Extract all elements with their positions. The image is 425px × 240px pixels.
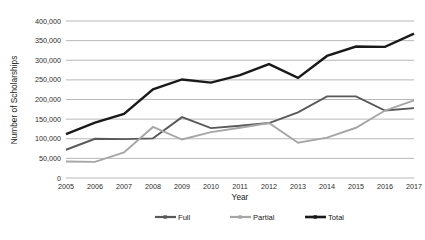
x-tick-label: 2005	[58, 182, 74, 191]
series-line-partial	[66, 100, 414, 162]
x-tick-label: 2014	[319, 182, 335, 191]
x-axis-tick-labels: 2005200620072008200920102011201220132014…	[58, 182, 422, 191]
legend-marker-full	[164, 215, 167, 218]
y-tick-label: 250,000	[35, 75, 61, 84]
x-tick-label: 2007	[116, 182, 132, 191]
x-axis-title: Year	[232, 192, 249, 202]
chart-canvas: 050,000100,000150,000200,000250,000300,0…	[0, 0, 425, 240]
y-tick-label: 50,000	[39, 154, 61, 163]
y-axis-title: Number of Scholarships	[9, 56, 19, 145]
chart-legend: FullPartialTotal	[155, 213, 344, 222]
x-tick-label: 2008	[145, 182, 161, 191]
data-series-group	[66, 34, 414, 162]
y-tick-label: 200,000	[35, 95, 61, 104]
legend-label-full: Full	[178, 213, 191, 222]
legend-label-total: Total	[328, 213, 344, 222]
x-tick-label: 2009	[174, 182, 190, 191]
y-tick-label: 400,000	[35, 17, 61, 26]
series-line-full	[66, 96, 414, 149]
y-tick-label: 100,000	[35, 134, 61, 143]
x-tick-label: 2013	[290, 182, 306, 191]
y-tick-label: 150,000	[35, 115, 61, 124]
x-tick-label: 2006	[87, 182, 103, 191]
x-tick-label: 2016	[377, 182, 393, 191]
y-axis-tick-labels: 050,000100,000150,000200,000250,000300,0…	[35, 17, 61, 183]
x-tick-label: 2017	[406, 182, 422, 191]
x-tick-label: 2012	[261, 182, 277, 191]
legend-label-partial: Partial	[253, 213, 275, 222]
y-tick-label: 350,000	[35, 36, 61, 45]
x-tick-label: 2010	[203, 182, 219, 191]
x-tick-label: 2015	[348, 182, 364, 191]
y-tick-label: 300,000	[35, 56, 61, 65]
legend-marker-total	[314, 215, 317, 218]
scholarships-line-chart: 050,000100,000150,000200,000250,000300,0…	[0, 0, 425, 240]
legend-marker-partial	[239, 215, 242, 218]
x-tick-label: 2011	[232, 182, 247, 191]
